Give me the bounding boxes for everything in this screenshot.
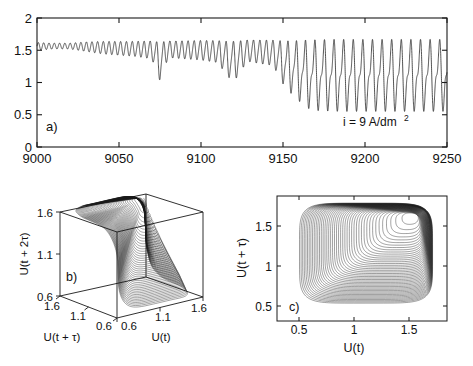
panel-b: 1.6 1.1 0.6 U(t + 2τ) 1.6 1.1 0.6 U(t + … (18, 194, 207, 343)
panel-a: 0 0.5 1 1.5 2 9000 9050 9100 9150 9200 9… (14, 11, 462, 167)
panel-c-ytick-1: 1 (265, 260, 272, 274)
panel-a-xtick-1: 9050 (105, 151, 134, 166)
panel-b-ztick-1: 1.1 (37, 249, 53, 261)
panel-b-trajectory (76, 197, 188, 308)
panel-a-ytick-3: 1.5 (14, 43, 32, 58)
panel-b-zaxis-title: U(t + 2τ) (18, 232, 30, 275)
panel-b-ytick-1: 1.1 (70, 310, 86, 322)
panel-a-ytick-4: 2 (25, 11, 32, 26)
panel-a-ytick-2: 1 (25, 75, 32, 90)
panel-b-attractor (76, 197, 188, 308)
panel-a-annotation-text: i = 9 A/dm (343, 115, 397, 129)
panel-b-ytick-0: 0.6 (96, 320, 112, 332)
panel-c-ytick-2: 1.5 (255, 220, 272, 234)
panel-c-attractor (300, 203, 433, 303)
panel-a-xtick-2: 9100 (187, 151, 216, 166)
panel-b-yaxis-title: U(t + τ) (44, 331, 81, 343)
panel-b-xtick-1: 1.1 (155, 311, 171, 323)
panel-a-xtick-5: 9250 (433, 151, 462, 166)
panel-c-xtick-1: 1 (351, 323, 358, 337)
panel-b-ytick-2: 1.6 (44, 300, 60, 312)
panel-a-annotation-current-density: i = 9 A/dm 2 (343, 113, 409, 129)
panel-a-annotation-superscript: 2 (404, 113, 409, 123)
panel-a-ytick-1: 0.5 (14, 107, 32, 122)
panel-a-timeseries (37, 39, 447, 111)
panel-b-xaxis-title: U(t) (151, 331, 170, 343)
panel-b-xtick-2: 1.6 (191, 302, 207, 314)
panel-c: 0.5 1 1.5 0.5 1 1.5 U(t) U(t + τ) c) (235, 196, 447, 355)
panel-c-x-ticks (299, 196, 409, 321)
panel-a-xtick-0: 9000 (23, 151, 52, 166)
panel-a-xtick-3: 9150 (269, 151, 298, 166)
panel-c-yaxis-title: U(t + τ) (235, 238, 249, 278)
panel-b-label: b) (66, 270, 77, 284)
panel-c-label: c) (289, 300, 299, 314)
panel-b-ztick-2: 1.6 (37, 207, 53, 219)
panel-c-xtick-2: 1.5 (401, 323, 418, 337)
panel-c-xtick-0: 0.5 (291, 323, 308, 337)
panel-b-xtick-0: 0.6 (121, 320, 137, 332)
figure-svg: 0 0.5 1 1.5 2 9000 9050 9100 9150 9200 9… (0, 0, 473, 366)
panel-a-trace (37, 39, 447, 111)
panel-c-ytick-0: 0.5 (255, 300, 272, 314)
panel-b-y-ticks (56, 296, 117, 321)
panel-c-trajectory (300, 203, 433, 303)
panel-a-label: a) (46, 119, 58, 134)
panel-b-z-ticks (56, 212, 60, 296)
panel-c-xaxis-title: U(t) (344, 341, 365, 355)
figure-container: 0 0.5 1 1.5 2 9000 9050 9100 9150 9200 9… (0, 0, 473, 366)
panel-a-xtick-4: 9200 (351, 151, 380, 166)
